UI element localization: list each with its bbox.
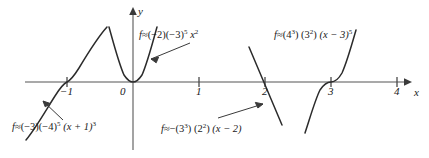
annotation-zero-at-minus-one-c2: (−4) (39, 121, 57, 132)
annotation-zero-at-minus-one-c2-exponent: 5 (57, 120, 61, 128)
annotation-zero-at-three-c1-close: ) (295, 29, 299, 40)
y-axis-arrowhead (129, 7, 137, 15)
annotation-zero-at-three-factor: (x − 3) (319, 29, 348, 40)
x-tick-label-minus-1: −1 (60, 86, 73, 97)
annotation-zero-at-two-factor: (x − 2) (212, 123, 241, 134)
annotation-zero-at-three: f≈(43) (32) (x − 3)5 (274, 30, 352, 41)
annotation-zero-at-two-c1-close: ) (188, 123, 192, 134)
annotation-zero-at-zero-c2: (−3) (166, 29, 184, 40)
x-tick-label-1: 1 (196, 86, 202, 97)
x-axis-arrowhead (404, 78, 412, 86)
annotation-zero-at-zero-factor-exponent: 2 (195, 28, 199, 36)
annotation-zero-at-two-c2-close: ) (206, 123, 210, 134)
annotation-zero-at-zero-c2-exponent: 5 (184, 28, 188, 36)
x-tick-label-3: 3 (328, 86, 334, 97)
annotation-zero-at-minus-one: f≈(−3)(−4)5 (x + 1)3 (12, 122, 96, 133)
annotation-zero-at-minus-one-factor: (x + 1) (63, 121, 92, 132)
x-tick-label-0: 0 (120, 86, 126, 97)
polynomial-zero-behavior-figure: −1 0 1 2 3 4 x y f≈(−2)(−3)5 x2 f≈(43) (… (0, 0, 429, 158)
x-tick-label-4: 4 (394, 86, 400, 97)
annotation-zero-at-three-factor-exponent: 5 (349, 28, 353, 36)
leader-line-zero-at-zero (151, 43, 190, 59)
annotation-zero-at-zero: f≈(−2)(−3)5 x2 (139, 30, 198, 41)
x-tick-label-2: 2 (262, 86, 268, 97)
annotation-zero-at-two: f≈−(33) (22) (x − 2) (161, 124, 242, 135)
x-axis-label: x (414, 87, 419, 98)
annotation-zero-at-three-c2-close: ) (313, 29, 317, 40)
leader-line-zero-at-two (218, 104, 263, 118)
annotation-zero-at-minus-one-factor-exponent: 3 (92, 120, 96, 128)
y-axis-label: y (138, 6, 143, 17)
annotation-zero-at-zero-c1: (−2) (148, 29, 166, 40)
annotation-zero-at-minus-one-c1: (−3) (21, 121, 39, 132)
leader-arrow-zero-at-zero (151, 57, 159, 63)
leader-arrow-zero-at-two (255, 102, 263, 108)
annotation-zero-at-two-c2: (2 (194, 123, 203, 134)
annotation-zero-at-three-c2: (3 (301, 29, 310, 40)
